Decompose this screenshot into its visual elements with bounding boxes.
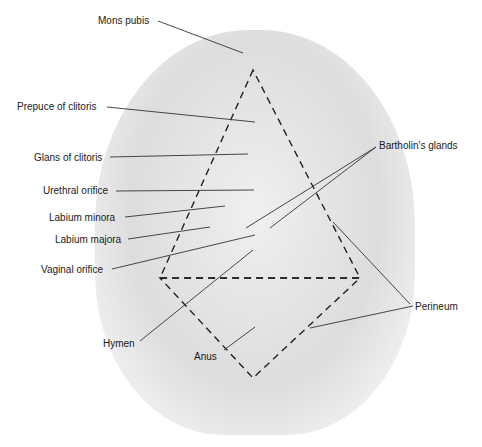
leader-line-labium-minora-0: [125, 206, 225, 217]
leader-line-urethral-orifice-0: [116, 190, 254, 191]
label-labium-majora: Labium majora: [55, 234, 121, 246]
leader-line-labium-majora-0: [128, 227, 210, 239]
leader-line-vaginal-orifice-0: [112, 235, 255, 269]
label-labium-minora: Labium minora: [49, 212, 115, 224]
label-anus: Anus: [194, 351, 217, 363]
label-urethral-orifice: Urethral orifice: [43, 185, 108, 197]
label-hymen: Hymen: [103, 338, 135, 350]
label-glans-of-clitoris: Glans of clitoris: [34, 152, 102, 164]
leader-line-mons-pubis-0: [158, 21, 243, 53]
label-perineum: Perineum: [415, 301, 458, 313]
leader-line-bartholins-glands-1: [270, 147, 376, 228]
leader-line-glans-of-clitoris-0: [110, 154, 248, 157]
leader-line-perineum-1: [310, 306, 413, 328]
region-outline-0: [160, 70, 360, 278]
region-outline-1: [160, 278, 360, 378]
label-mons-pubis: Mons pubis: [98, 15, 149, 27]
anatomical-diagram: Mons pubisPrepuce of clitorisGlans of cl…: [0, 0, 482, 447]
leader-line-hymen-0: [140, 250, 253, 341]
label-prepuce-of-clitoris: Prepuce of clitoris: [17, 101, 96, 113]
leader-line-bartholins-glands-0: [246, 147, 376, 228]
label-bartholins-glands: Bartholin's glands: [379, 140, 458, 152]
label-vaginal-orifice: Vaginal orifice: [41, 264, 103, 276]
leader-line-anus-0: [224, 327, 255, 350]
